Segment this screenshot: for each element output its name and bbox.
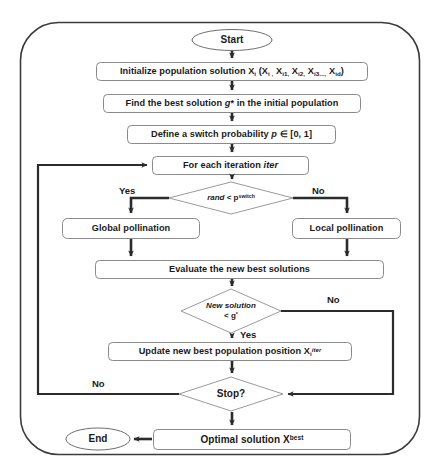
node-evaluate-shape: [96, 261, 384, 279]
node-initialize-shape: [97, 63, 368, 81]
node-for-each-shape: [153, 157, 309, 175]
node-optimal-shape: [154, 430, 351, 450]
edge-label-rand-no: No: [312, 185, 325, 196]
edge-label-stop-no: No: [92, 378, 105, 389]
node-rand-decision-shape: [169, 182, 293, 214]
node-global-pollination-shape: [63, 219, 200, 239]
node-find-best-shape: [104, 95, 361, 113]
edge-label-new-solution-yes: Yes: [240, 329, 256, 340]
node-define-switch-shape: [128, 126, 336, 144]
node-start-shape: [192, 30, 272, 51]
edge-label-new-solution-no: No: [327, 294, 340, 305]
edge-rand-yes-to-global: [131, 198, 169, 213]
edge-label-rand-yes: Yes: [119, 185, 135, 196]
node-local-pollination-shape: [293, 219, 401, 239]
flowchart-graphics: [0, 0, 440, 468]
node-stop-decision-shape: [179, 377, 283, 411]
edge-rand-no-to-local: [293, 198, 347, 213]
flowchart-canvas: Start Initialize population solution Xi …: [0, 0, 440, 468]
node-end-shape: [66, 428, 130, 450]
node-update-shape: [109, 343, 352, 361]
node-new-solution-decision-shape: [181, 289, 281, 333]
